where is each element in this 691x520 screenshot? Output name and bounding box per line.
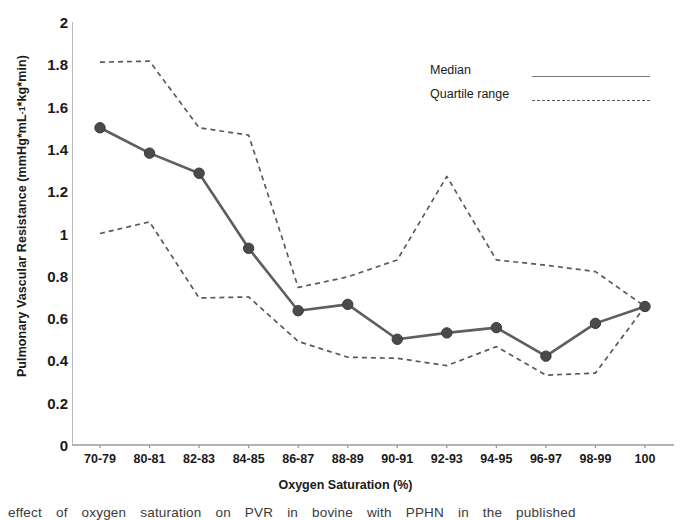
y-axis-tick-label: 0.2 <box>28 394 68 411</box>
legend-item-quartile-range: Quartile range <box>430 82 650 106</box>
y-axis-tick-label: 0 <box>28 437 68 454</box>
data-point-marker <box>640 301 650 311</box>
data-point-marker <box>541 351 551 361</box>
x-axis-tick-labels: 70-7980-8182-8384-8586-8788-8990-9192-93… <box>0 452 691 474</box>
legend-label-quartile-range: Quartile range <box>430 87 509 101</box>
data-point-marker <box>194 168 204 178</box>
x-axis-tick-label: 88-89 <box>332 452 364 466</box>
x-axis-tick-label: 70-79 <box>84 452 116 466</box>
figure-caption-text: effect of oxygen saturation on PVR in bo… <box>0 504 691 520</box>
y-axis-title-wrapper: Pulmonary Vascular Resistance (mmHg*mL-1… <box>0 0 28 450</box>
x-axis-tick-label: 82-83 <box>183 452 215 466</box>
y-axis-tick-label: 2 <box>28 14 68 31</box>
series-line-lower-quartile <box>100 222 645 375</box>
data-point-marker <box>243 243 253 253</box>
y-axis-tick-label: 1.4 <box>28 140 68 157</box>
figure-container: Pulmonary Vascular Resistance (mmHg*mL-1… <box>0 0 691 520</box>
legend-swatch-quartile-dashed-line <box>532 88 650 101</box>
data-point-marker <box>590 318 600 328</box>
chart-legend: Median Quartile range <box>430 58 650 108</box>
y-axis-tick-label: 0.8 <box>28 267 68 284</box>
data-point-marker <box>95 123 105 133</box>
legend-item-median: Median <box>430 58 650 82</box>
legend-label-median: Median <box>430 63 471 77</box>
x-axis-title: Oxygen Saturation (%) <box>0 478 691 492</box>
y-axis-tick-label: 1.6 <box>28 98 68 115</box>
x-axis-tick-label: 84-85 <box>233 452 265 466</box>
data-point-marker <box>293 306 303 316</box>
legend-swatch-median-solid-line <box>532 64 650 77</box>
x-axis-tick-label: 86-87 <box>282 452 314 466</box>
data-point-marker <box>144 148 154 158</box>
x-axis-tick-label: 92-93 <box>431 452 463 466</box>
data-point-marker <box>392 334 402 344</box>
y-axis-tick-label: 1.2 <box>28 183 68 200</box>
y-axis-tick-label: 1.8 <box>28 56 68 73</box>
figure-caption-clipped: effect of oxygen saturation on PVR in bo… <box>0 504 691 520</box>
y-axis-tick-labels: 21.81.61.41.210.80.60.40.20 <box>26 0 68 460</box>
y-axis-tick-label: 0.6 <box>28 310 68 327</box>
series-line-median <box>100 128 645 356</box>
x-axis-tick-label: 94-95 <box>480 452 512 466</box>
data-point-marker <box>343 299 353 309</box>
x-axis-tick-label: 100 <box>635 452 656 466</box>
x-axis-tick-label: 90-91 <box>381 452 413 466</box>
y-axis-tick-label: 1 <box>28 225 68 242</box>
y-axis-tick-label: 0.4 <box>28 352 68 369</box>
x-axis-tick-label: 80-81 <box>134 452 166 466</box>
x-axis-tick-label: 98-99 <box>579 452 611 466</box>
x-axis-tick-label: 96-97 <box>530 452 562 466</box>
data-point-marker <box>491 322 501 332</box>
data-point-marker <box>442 328 452 338</box>
